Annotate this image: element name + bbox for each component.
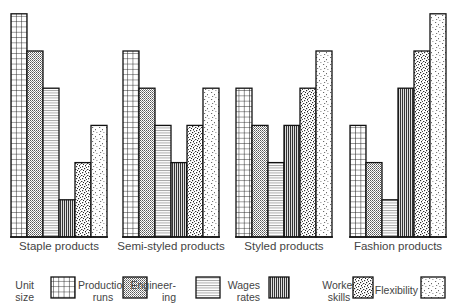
bar-engineering [155,125,171,237]
category-labels: Staple productsSemi-styled productsStyle… [19,240,442,252]
bar-wages-rates [171,163,187,237]
legend-swatch [269,277,289,298]
bar-group [10,14,108,237]
legend-label: Wages [228,279,260,291]
legend-item: Flexibility [375,277,445,298]
category-label: Fashion products [354,240,442,252]
bar-worker-skills [300,88,316,237]
legend-swatch [353,277,373,298]
bar-wages-rates [284,125,300,237]
category-label: Semi-styled products [117,240,225,252]
bar-wages-rates [398,88,414,237]
bar-group [235,51,333,237]
legend-label: Engineer- [130,279,176,291]
legend: UnitsizeProductionrunsEngineer-ingWagesr… [15,277,445,303]
legend-label: size [15,291,34,303]
category-label: Staple products [19,240,99,252]
category-label: Styled products [244,240,324,252]
bar-flexibility [316,51,332,237]
bars-layer [10,14,447,237]
legend-swatch [51,277,75,298]
bar-worker-skills [414,51,430,237]
bar-production-runs [252,125,268,237]
legend-swatch [196,277,220,298]
bar-production-runs [139,88,155,237]
bar-production-runs [27,51,43,237]
bar-engineering [268,163,284,237]
bar-flexibility [91,125,107,237]
legend-item: Wagesrates [228,277,289,303]
bar-wages-rates [59,200,75,237]
bar-engineering [43,88,59,237]
legend-swatch [421,277,445,298]
bar-group [349,14,447,237]
bar-unit-size [236,88,252,237]
bar-flexibility [203,88,219,237]
legend-label: ing [162,291,176,303]
bar-worker-skills [187,125,203,237]
legend-label: rates [237,291,260,303]
legend-label: skills [328,291,351,303]
legend-label: Flexibility [375,284,419,296]
bar-engineering [382,200,398,237]
bar-unit-size [11,14,27,237]
bar-unit-size [123,51,139,237]
bar-chart: Staple productsSemi-styled productsStyle… [0,0,456,308]
bar-production-runs [366,163,382,237]
legend-item: Workerskills [322,277,373,303]
legend-item: Engineer-ing [130,277,220,303]
legend-label: runs [93,291,113,303]
bar-flexibility [430,14,446,237]
bar-unit-size [350,125,366,237]
bar-group [122,51,220,237]
legend-item: Unitsize [15,277,75,303]
legend-label: Unit [15,279,34,291]
legend-label: Worker [322,279,356,291]
bar-worker-skills [75,163,91,237]
legend-label: Production [78,279,128,291]
